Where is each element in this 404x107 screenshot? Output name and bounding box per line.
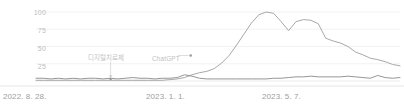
chart-plot-area [0, 0, 404, 107]
annotation-label-digital-therapeutics: 디지털치료제 [88, 54, 125, 62]
x-axis-tick-start: 2022. 8. 28. [3, 92, 46, 101]
trends-line-chart: 100 75 50 25 2022. 8. 28. 2023. 1. 1. 20… [0, 0, 404, 107]
gridlines [0, 12, 404, 86]
x-axis-tick-end: 2023. 5. 7. [262, 92, 301, 101]
x-axis-tick-middle: 2023. 1. 1. [146, 92, 185, 101]
y-axis-tick-25: 25 [24, 63, 46, 71]
y-axis-tick-75: 75 [24, 27, 46, 35]
y-axis-tick-50: 50 [24, 45, 46, 53]
y-axis-tick-100: 100 [24, 9, 46, 17]
annotation-label-chatgpt: ChatGPT [152, 55, 180, 63]
